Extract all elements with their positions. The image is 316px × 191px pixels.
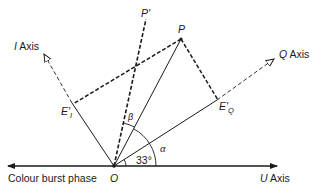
phasor-diagram: I Axis Q Axis U Axis Colour burst phase … bbox=[0, 0, 316, 191]
q-axis-solid bbox=[114, 100, 217, 166]
origin-dot bbox=[112, 164, 116, 168]
point-p-prime-label: P' bbox=[141, 7, 151, 19]
origin-label: O bbox=[110, 172, 118, 184]
e-i-label: E'I bbox=[61, 105, 72, 120]
point-p-label: P bbox=[178, 23, 185, 35]
q-axis-label: Q Axis bbox=[279, 48, 309, 60]
colour-burst-label: Colour burst phase bbox=[8, 172, 97, 184]
i-axis-dashed bbox=[44, 54, 72, 103]
angle-beta-arc bbox=[123, 123, 134, 127]
u-axis-label: U Axis bbox=[260, 172, 290, 184]
vector-op-prime bbox=[114, 19, 146, 166]
angle-beta-label: β bbox=[127, 112, 133, 122]
angle-alpha-label: α bbox=[160, 143, 166, 154]
vector-op bbox=[114, 39, 181, 166]
projection-p-to-ei bbox=[73, 39, 181, 104]
angle-33-arc bbox=[124, 160, 126, 167]
projection-p-to-eq bbox=[181, 39, 218, 100]
i-axis-solid bbox=[72, 103, 114, 166]
e-q-label: E'Q bbox=[219, 100, 234, 115]
angle-33-label: 33° bbox=[136, 154, 152, 166]
q-axis-dashed bbox=[217, 59, 274, 100]
i-axis-label: I Axis bbox=[14, 40, 39, 52]
